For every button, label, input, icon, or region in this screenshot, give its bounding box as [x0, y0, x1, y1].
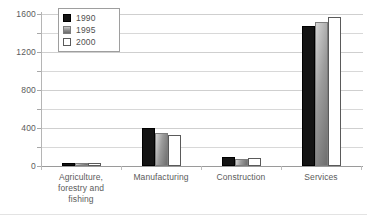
y-axis-label-1600: 1600 — [16, 9, 36, 19]
x-axis-label-manufacturing-line1: Manufacturing — [121, 172, 201, 183]
legend-item-1995: 1995 — [63, 24, 115, 36]
axis-baseline — [41, 166, 363, 167]
x-tick-3 — [281, 166, 282, 170]
bar-group-manufacturing — [121, 14, 201, 166]
legend-swatch-2000-icon — [63, 38, 71, 46]
y-axis-label-400: 400 — [21, 123, 36, 133]
bar-group-construction — [201, 14, 281, 166]
bar-agriculture-2000 — [88, 163, 101, 166]
bar-services-1995 — [315, 22, 328, 166]
bar-construction-1995 — [235, 159, 248, 166]
y-axis-labels: 1600 1200 800 400 0 — [0, 14, 36, 166]
bar-group-services — [281, 14, 361, 166]
x-axis-label-agriculture-line1: Agriculture, — [41, 172, 121, 183]
x-axis-label-agriculture-line2: forestry and — [41, 183, 121, 194]
legend-swatch-1990-icon — [63, 14, 71, 22]
bar-agriculture-1990 — [62, 163, 75, 166]
x-tick-1 — [121, 166, 122, 170]
x-axis-label-manufacturing: Manufacturing — [121, 172, 201, 183]
legend-label-1990: 1990 — [76, 13, 96, 23]
y-axis-label-1200: 1200 — [16, 47, 36, 57]
x-axis-label-construction-line1: Construction — [201, 172, 281, 183]
x-axis-label-construction: Construction — [201, 172, 281, 183]
bar-manufacturing-2000 — [168, 135, 181, 166]
x-axis-label-services-line1: Services — [281, 172, 361, 183]
bar-services-1990 — [302, 26, 315, 166]
x-tick-2 — [201, 166, 202, 170]
x-tick-0 — [41, 166, 42, 170]
bar-manufacturing-1990 — [142, 128, 155, 166]
x-axis-label-services: Services — [281, 172, 361, 183]
y-axis-label-800: 800 — [21, 85, 36, 95]
bar-chart-figure: 1600 1200 800 400 0 — [0, 0, 367, 215]
chart-legend: 1990 1995 2000 — [58, 8, 120, 52]
legend-swatch-1995-icon — [63, 26, 71, 34]
legend-label-2000: 2000 — [76, 37, 96, 47]
legend-item-2000: 2000 — [63, 36, 115, 48]
bar-services-2000 — [328, 17, 341, 166]
x-axis-label-agriculture-line3: fishing — [41, 194, 121, 205]
legend-item-1990: 1990 — [63, 12, 115, 24]
legend-label-1995: 1995 — [76, 25, 96, 35]
bar-construction-2000 — [248, 158, 261, 166]
x-tick-4 — [361, 166, 362, 170]
bar-manufacturing-1995 — [155, 133, 168, 166]
bar-construction-1990 — [222, 157, 235, 166]
y-axis-label-0: 0 — [31, 161, 36, 171]
bar-agriculture-1995 — [75, 163, 88, 166]
x-axis-label-agriculture: Agriculture, forestry and fishing — [41, 172, 121, 205]
